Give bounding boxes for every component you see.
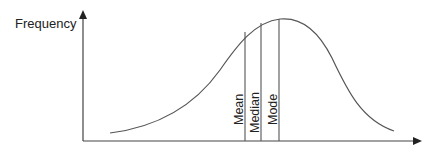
y-axis-arrow-icon xyxy=(79,10,87,19)
y-axis-label: Frequency xyxy=(15,16,77,31)
x-axis-arrow-icon xyxy=(413,137,422,145)
mode-label: Mode xyxy=(266,94,280,125)
skewed-distribution-diagram: Frequency Mean Median Mode xyxy=(0,0,427,154)
mean-label: Mean xyxy=(232,94,246,125)
median-label: Median xyxy=(248,92,262,133)
